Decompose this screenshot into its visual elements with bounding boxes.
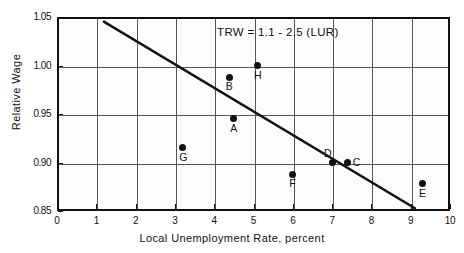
x-axis-tick xyxy=(293,204,294,209)
x-axis-tick-label: 1 xyxy=(84,215,108,226)
y-axis-tick-label: 0.90 xyxy=(17,157,51,168)
x-axis-title: Local Unemployment Rate, percent xyxy=(0,232,464,244)
data-point-label-g: G xyxy=(179,151,187,163)
x-axis-tick xyxy=(175,204,176,209)
x-axis-tick xyxy=(96,204,97,209)
y-axis-tick-label: 1.05 xyxy=(17,11,51,22)
data-point-label-e: E xyxy=(419,187,426,199)
x-axis-tick xyxy=(371,204,372,209)
y-axis-tick-label: 0.95 xyxy=(17,108,51,119)
regression-equation-label: TRW = 1.1 - 2.5 (LUR) xyxy=(217,26,338,38)
x-axis-tick-label: 0 xyxy=(45,215,69,226)
x-axis-tick-label: 6 xyxy=(281,215,305,226)
plot-area xyxy=(57,17,450,211)
y-axis-tick xyxy=(58,66,63,67)
data-point-label-a: A xyxy=(230,122,237,134)
x-axis-tick xyxy=(254,204,255,209)
gridline-vertical xyxy=(137,19,138,209)
x-axis-tick-label: 10 xyxy=(438,215,462,226)
gridline-vertical xyxy=(255,19,256,209)
data-point-label-d: D xyxy=(324,147,332,159)
x-axis-tick-label: 2 xyxy=(124,215,148,226)
gridline-vertical xyxy=(176,19,177,209)
y-axis-tick xyxy=(58,163,63,164)
gridline-vertical xyxy=(412,19,413,209)
data-point-label-b: B xyxy=(226,80,233,92)
x-axis-tick-label: 7 xyxy=(320,215,344,226)
gridline-vertical xyxy=(215,19,216,209)
gridline-vertical xyxy=(372,19,373,209)
gridline-horizontal xyxy=(59,115,448,116)
x-axis-tick xyxy=(411,204,412,209)
y-axis-tick xyxy=(58,17,63,18)
x-axis-tick-label: 8 xyxy=(359,215,383,226)
data-point-label-f: F xyxy=(289,177,295,189)
gridline-horizontal xyxy=(59,164,448,165)
data-point-label-h: H xyxy=(254,69,262,81)
y-axis-tick xyxy=(58,211,63,212)
x-axis-tick-label: 3 xyxy=(163,215,187,226)
y-axis-title: Relative Wage xyxy=(10,32,22,152)
x-axis-tick xyxy=(57,204,58,209)
chart-figure: Relative Wage TRW = 1.1 - 2.5 (LUR) 0123… xyxy=(0,0,464,253)
y-axis-tick-label: 1.00 xyxy=(17,60,51,71)
data-point-d xyxy=(329,159,336,166)
data-point-label-c: C xyxy=(353,156,361,168)
x-axis-tick xyxy=(214,204,215,209)
x-axis-tick-label: 4 xyxy=(202,215,226,226)
x-axis-tick xyxy=(450,204,451,209)
x-axis-tick-label: 5 xyxy=(242,215,266,226)
gridline-vertical xyxy=(333,19,334,209)
y-axis-tick-label: 0.85 xyxy=(17,205,51,216)
x-axis-tick xyxy=(332,204,333,209)
y-axis-tick xyxy=(58,114,63,115)
x-axis-tick xyxy=(136,204,137,209)
x-axis-tick-label: 9 xyxy=(399,215,423,226)
gridline-vertical xyxy=(97,19,98,209)
